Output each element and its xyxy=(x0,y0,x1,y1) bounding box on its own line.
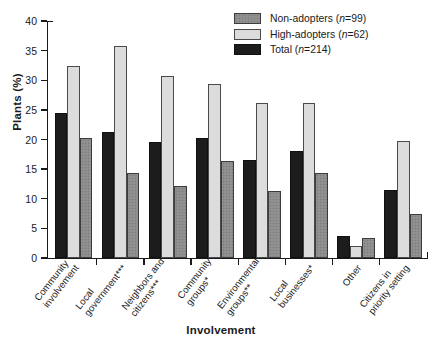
bar xyxy=(290,151,303,258)
bar xyxy=(397,141,410,258)
bar xyxy=(196,138,209,258)
y-tick-mark: 0 xyxy=(41,257,47,258)
bar xyxy=(410,214,423,258)
bar xyxy=(149,142,162,258)
bar-chart-figure: Plants (%) 0510152025303540 Communityinv… xyxy=(0,0,442,348)
bar xyxy=(268,191,281,258)
x-group-tick xyxy=(332,259,333,265)
legend-item: Total (n=214) xyxy=(234,44,434,55)
x-axis-title: Involvement xyxy=(0,324,442,336)
legend-swatch xyxy=(234,29,261,40)
legend-label: Non-adopters (n=99) xyxy=(270,13,366,24)
x-group-tick xyxy=(190,259,191,265)
y-tick-label: 0 xyxy=(31,252,37,264)
x-category-label-text: Environmentalgroups** xyxy=(215,257,270,319)
legend-swatch xyxy=(234,44,261,55)
y-tick-mark: 40 xyxy=(41,20,47,21)
x-group-tick xyxy=(285,259,286,265)
x-category-label-text: Citizens inpriority setting xyxy=(357,257,411,317)
bar xyxy=(256,103,269,258)
bar xyxy=(243,160,256,258)
y-tick-mark: 35 xyxy=(41,50,47,51)
x-category-label-text: Localbusinesses* xyxy=(268,257,317,311)
chart-legend: Non-adopters (n=99)High-adopters (n=62)T… xyxy=(234,13,434,60)
x-group-tick xyxy=(143,259,144,265)
bar xyxy=(208,84,221,258)
y-tick-mark: 5 xyxy=(41,228,47,229)
legend-item: High-adopters (n=62) xyxy=(234,29,434,40)
bar xyxy=(114,46,127,258)
bar-group xyxy=(102,21,140,258)
bar xyxy=(161,76,174,258)
y-tick-mark: 30 xyxy=(41,80,47,81)
y-tick-mark: 10 xyxy=(41,198,47,199)
x-axis-right-cap xyxy=(427,252,428,259)
bar xyxy=(102,132,115,258)
y-axis-title: Plants (%) xyxy=(11,47,23,157)
y-tick-label: 10 xyxy=(25,193,37,205)
y-tick-label: 15 xyxy=(25,163,37,175)
bar-group xyxy=(55,21,93,258)
bar xyxy=(67,66,80,258)
bar xyxy=(80,138,93,258)
bar xyxy=(350,246,363,258)
bar xyxy=(303,103,316,258)
y-tick-label: 25 xyxy=(25,104,37,116)
x-category-label-text: Communitygroups* xyxy=(176,257,223,309)
bar xyxy=(127,173,140,258)
y-tick-mark: 15 xyxy=(41,168,47,169)
y-axis-line xyxy=(47,21,48,258)
y-tick-label: 20 xyxy=(25,134,37,146)
y-tick-mark: 25 xyxy=(41,109,47,110)
y-tick-mark: 20 xyxy=(41,139,47,140)
x-category-label-text: Localgovernment*** xyxy=(73,257,128,319)
legend-swatch xyxy=(234,13,261,24)
legend-label: Total (n=214) xyxy=(270,44,331,55)
bar-group xyxy=(196,21,234,258)
y-axis-top-cap xyxy=(47,21,53,22)
legend-label: High-adopters (n=62) xyxy=(270,29,369,40)
bar xyxy=(221,161,234,258)
legend-item: Non-adopters (n=99) xyxy=(234,13,434,24)
bar-group xyxy=(149,21,187,258)
x-group-tick xyxy=(379,259,380,265)
bar xyxy=(384,190,397,258)
x-category-label-text: Neighbors andcitizens*** xyxy=(120,257,175,319)
x-group-tick xyxy=(96,259,97,265)
y-tick-label: 5 xyxy=(31,222,37,234)
bar xyxy=(337,236,350,258)
bar xyxy=(174,186,187,258)
x-category-label-line: Other xyxy=(341,263,364,289)
y-tick-label: 35 xyxy=(25,45,37,57)
x-category-label-text: Other xyxy=(341,263,364,289)
bar xyxy=(55,113,68,258)
bar xyxy=(315,173,328,258)
y-tick-label: 40 xyxy=(25,15,37,27)
y-tick-label: 30 xyxy=(25,74,37,86)
bar xyxy=(362,238,375,258)
x-group-tick xyxy=(238,259,239,265)
